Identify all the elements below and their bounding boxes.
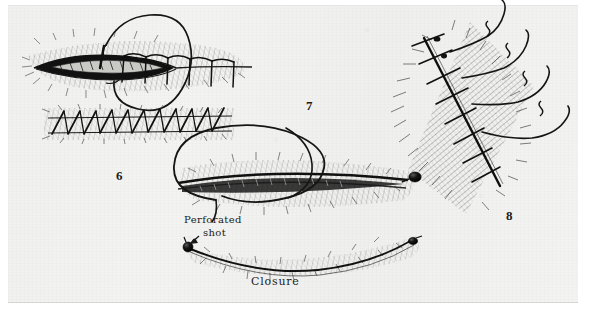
illustration-plate: 6 7 8 Perforated shot Closure — [0, 0, 589, 309]
figure-8-artwork — [391, 0, 569, 220]
shot-bead-closure-right-thread — [416, 236, 422, 238]
closure-caption: Closure — [251, 275, 300, 288]
closure-tissue — [180, 230, 430, 296]
perforated-shot-label-line2: shot — [203, 227, 226, 238]
figure-number-6: 6 — [116, 168, 123, 184]
perforated-shot-label-line1: Perforated — [184, 214, 242, 225]
figure-8-tissue — [395, 15, 545, 220]
plate-artwork — [0, 0, 589, 309]
figure-6-artwork — [20, 15, 260, 144]
figure-number-7: 7 — [306, 98, 313, 114]
figure-number-8: 8 — [506, 208, 513, 224]
perforated-shot-arrow-head — [190, 238, 198, 244]
closure-artwork — [180, 230, 430, 296]
